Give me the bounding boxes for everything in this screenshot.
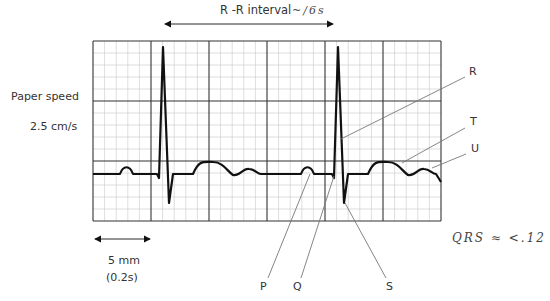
rr-interval-label: R -R interval	[220, 3, 291, 17]
label-t: T	[470, 115, 477, 128]
label-s: S	[386, 280, 393, 293]
ecg-grid-paper	[93, 41, 441, 221]
scale-distance: 5 mm	[108, 254, 140, 267]
qrs-handwritten-note: QRS ≈ <.12	[452, 231, 546, 245]
label-p: P	[260, 280, 267, 293]
leader-t	[402, 128, 465, 163]
leader-q	[301, 176, 334, 278]
label-u: U	[471, 142, 479, 155]
label-r: R	[469, 65, 477, 78]
leader-s	[345, 203, 386, 278]
ecg-diagram	[0, 0, 550, 301]
paper-speed-label: Paper speed	[11, 90, 79, 103]
rr-handwritten-note: ~/6s	[292, 4, 326, 17]
label-q: Q	[293, 280, 302, 293]
leader-p	[268, 174, 310, 278]
scale-time: (0.2s)	[106, 271, 138, 284]
paper-speed-value: 2.5 cm/s	[30, 120, 77, 133]
label-leader-lines	[268, 77, 466, 278]
